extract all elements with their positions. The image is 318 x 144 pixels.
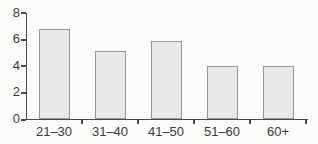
bar-60+	[263, 66, 294, 119]
y-tick-label: 0	[0, 112, 20, 126]
y-axis-tick	[21, 92, 26, 94]
x-category-label: 51–60	[194, 124, 250, 139]
y-axis-tick	[21, 39, 26, 41]
bar-51–60	[207, 66, 238, 119]
bar-41–50	[151, 41, 182, 119]
y-tick-label: 2	[0, 85, 20, 99]
y-axis	[26, 13, 27, 120]
x-category-label: 60+	[250, 124, 306, 139]
x-axis	[26, 119, 308, 120]
bar-31–40	[95, 51, 126, 119]
y-tick-label: 6	[0, 32, 20, 46]
x-category-label: 31–40	[82, 124, 138, 139]
bar-21–30	[39, 29, 70, 119]
y-axis-tick	[21, 119, 26, 121]
x-category-label: 21–30	[26, 124, 82, 139]
y-tick-label: 4	[0, 59, 20, 73]
age-distribution-bar-chart: 0246821–3031–4041–5051–6060+	[0, 0, 318, 144]
y-axis-tick	[21, 65, 26, 67]
x-category-label: 41–50	[138, 124, 194, 139]
plot-area: 0246821–3031–4041–5051–6060+	[0, 0, 318, 144]
y-tick-label: 8	[0, 6, 20, 20]
y-axis-tick	[21, 12, 26, 14]
